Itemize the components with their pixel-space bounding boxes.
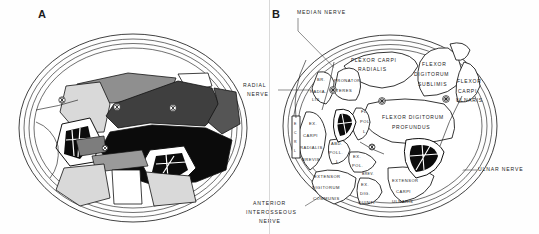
- lbl-pt-2: TERES: [336, 88, 352, 93]
- lbl-fcu-1: FLEXOR: [457, 78, 482, 84]
- lbl-ecrb-2: CARPI: [303, 133, 318, 138]
- lbl-epb-2: POL.: [352, 163, 363, 168]
- lbl-ecrb-1: EX.: [309, 121, 317, 126]
- anatomical-figure: A: [0, 0, 539, 234]
- lbl-fpl-2: POL.: [360, 119, 371, 124]
- lbl-ecrb-3: RADIALIS: [300, 145, 323, 150]
- muscle-a-11: [146, 172, 196, 206]
- lbl-epb-1: EX.: [353, 154, 361, 159]
- lbl-edq-2: DIG.: [360, 191, 370, 196]
- lbl-fcu-3: ULNARIS: [456, 97, 483, 103]
- panel-a-muscles: [36, 73, 240, 206]
- median-nerve-text: MEDIAN NERVE: [297, 9, 346, 15]
- lbl-fpl-3: L.: [363, 129, 367, 134]
- panel-b-group: B MEDIAN NERVE RADIAL NERVE ULNAR NERVE …: [243, 8, 524, 224]
- panel-a-letter: A: [38, 8, 46, 20]
- lbl-ecu-2: CARPI: [396, 189, 411, 194]
- lbl-apl-3: L.: [336, 159, 340, 164]
- lbl-ecu-1: EXTENSOR: [392, 178, 419, 183]
- lbl-fcr-2: RADIALIS: [358, 66, 387, 72]
- lbl-br-2: RADIA-: [310, 89, 327, 94]
- lbl-apl-2: POLL.: [329, 150, 343, 155]
- lbl-edc-2: DIGITORUM: [312, 185, 340, 190]
- lbl-ecu-3: ULNARIS: [392, 199, 413, 204]
- lbl-br-3: LIS: [312, 97, 320, 102]
- lbl-ecrb-4: BREVIS: [302, 157, 320, 162]
- lbl-fdp-2: PROFUNDUS: [392, 124, 430, 130]
- lbl-epb-3: BREV.: [362, 172, 374, 176]
- lbl-br-1: BR.: [317, 77, 325, 82]
- lbl-ecrl-3: R: [294, 140, 297, 144]
- lbl-fpl-1: FL.: [361, 109, 368, 114]
- panel-a-group: A: [19, 8, 247, 222]
- lbl-edc-1: EXTENSOR: [314, 174, 341, 179]
- lbl-fds-3: SUBLIMIS: [418, 81, 447, 87]
- lbl-fds-1: FLEXOR: [422, 61, 447, 67]
- ant-interosseous-text-2: INTEROSSEOUS: [246, 209, 297, 215]
- muscle-a-9: [56, 164, 110, 206]
- lbl-ecrl-4: L: [294, 149, 296, 153]
- lbl-fcu-2: CARPI: [458, 88, 477, 94]
- lbl-apl-1: ABD.: [331, 141, 343, 146]
- lbl-edq-3: QUINTI: [358, 200, 375, 205]
- lbl-ecrl-2: C: [294, 131, 297, 135]
- radial-nerve-text-1: RADIAL: [243, 82, 267, 88]
- panel-b-letter: B: [272, 8, 280, 20]
- lbl-edc-3: COMMUNIS: [313, 196, 340, 201]
- lbl-fdp-1: FLEXOR DIGITORUM: [382, 114, 444, 120]
- lbl-pt-1: PRONATOR: [334, 78, 361, 83]
- panel-divider: [269, 0, 270, 234]
- lbl-fcr-1: FLEXOR CARPI: [351, 57, 397, 63]
- ulnar-nerve-text: ULNAR NERVE: [478, 166, 524, 172]
- muscle-a-10: [112, 170, 142, 204]
- lbl-fds-2: DIGITORUM: [414, 71, 449, 77]
- lbl-ecrl-1: E: [294, 122, 297, 126]
- lbl-edq-1: EX.: [361, 182, 369, 187]
- radial-nerve-text-2: NERVE: [247, 91, 269, 97]
- compartment-pronator-teres: [334, 68, 361, 100]
